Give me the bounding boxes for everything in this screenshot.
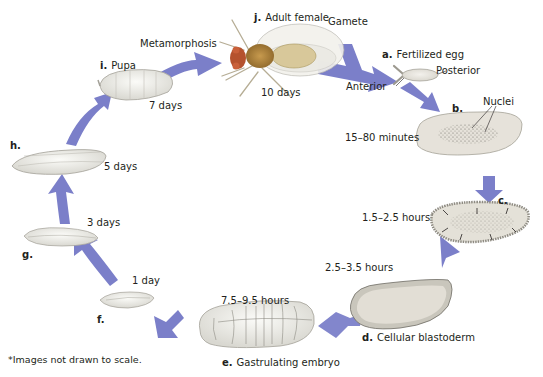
scale-footnote: *Images not drawn to scale.: [8, 354, 142, 365]
stage-i-label: i.Pupa: [100, 61, 136, 71]
stage-h-time: 5 days: [104, 162, 137, 172]
nuclei-label: Nuclei: [483, 97, 514, 107]
stage-j-name: Adult female: [265, 12, 329, 23]
syncytial-embryo-image: [416, 106, 522, 155]
stage-b-label: b.: [452, 104, 467, 114]
stage-f-letter: f.: [97, 314, 105, 325]
gastrulating-embryo-image: [199, 301, 314, 348]
adult-fly-image: [220, 20, 344, 96]
stage-a-label: a.Fertilized egg: [382, 50, 464, 60]
arrow-e-to-f: [154, 310, 184, 338]
arrow-g-to-h: [48, 174, 74, 224]
stage-a-name: Fertilized egg: [397, 49, 465, 60]
stage-d-letter: d.: [362, 332, 373, 343]
stage-b-time: 15–80 minutes: [345, 133, 419, 143]
stage-j-time: 10 days: [261, 88, 301, 98]
stage-c-label: c.: [498, 196, 512, 206]
stage-g-time: 3 days: [87, 218, 120, 228]
stage-i-letter: i.: [100, 60, 107, 71]
stage-c-letter: c.: [498, 195, 508, 206]
stage-h-letter: h.: [10, 140, 21, 151]
stage-e-name: Gastrulating embryo: [237, 357, 340, 368]
stage-f-time: 1 day: [132, 276, 160, 286]
first-instar-larva-image: [100, 292, 154, 308]
stage-c-time: 1.5–2.5 hours: [362, 213, 430, 223]
arrow-a-to-b: [400, 82, 440, 112]
metamorphosis-label: Metamorphosis: [140, 39, 217, 49]
stage-a-letter: a.: [382, 49, 393, 60]
stage-e-time: 7.5–9.5 hours: [221, 296, 289, 306]
second-instar-larva-image: [24, 228, 98, 246]
anterior-label: Anterior: [346, 82, 386, 92]
stage-g-letter: g.: [22, 249, 33, 260]
gamete-label: Gamete: [328, 17, 368, 27]
stage-f-label: f.: [97, 315, 109, 325]
stage-e-label: e.Gastrulating embryo: [222, 358, 340, 368]
stage-j-letter: j.: [254, 12, 261, 23]
posterior-label: Posterior: [436, 66, 480, 76]
stage-e-letter: e.: [222, 357, 233, 368]
syncytial-blastoderm-image: [431, 202, 528, 242]
stage-d-name: Cellular blastoderm: [377, 332, 475, 343]
stage-h-label: h.: [10, 141, 25, 151]
pupa-image: [98, 70, 173, 100]
stage-i-name: Pupa: [111, 60, 136, 71]
third-instar-larva-image: [12, 150, 106, 175]
stage-d-label: d.Cellular blastoderm: [362, 333, 475, 343]
stage-j-label: j.Adult female: [254, 13, 329, 23]
stage-d-time: 2.5–3.5 hours: [325, 263, 393, 273]
cellular-blastoderm-image: [350, 280, 452, 329]
stage-i-time: 7 days: [149, 101, 182, 111]
stage-b-letter: b.: [452, 103, 463, 114]
stage-g-label: g.: [22, 250, 37, 260]
arrow-h-to-i: [66, 92, 112, 146]
